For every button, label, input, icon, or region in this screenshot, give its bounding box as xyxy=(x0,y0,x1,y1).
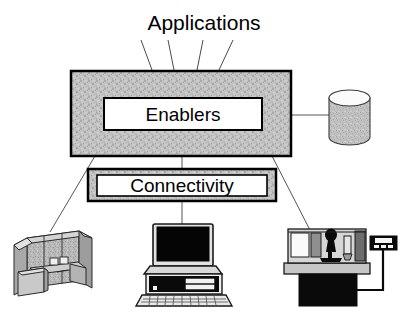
controller-button-2[interactable] xyxy=(381,245,386,248)
cnc-machine-tool-icon[interactable] xyxy=(284,229,370,307)
cubicle-pedestal-side xyxy=(44,268,48,292)
architecture-diagram: Applications Enablers xyxy=(0,0,408,314)
machine-tool-magazine-base xyxy=(343,254,352,260)
connectivity-label: Connectivity xyxy=(130,175,234,196)
controller-button-1[interactable] xyxy=(374,245,379,248)
machine-tool-magazine xyxy=(344,236,351,254)
system-unit-front xyxy=(149,276,219,292)
applications-connector-4 xyxy=(219,40,233,70)
machine-column-right xyxy=(355,231,365,261)
cubicle-desk-item-2 xyxy=(60,257,68,264)
controller-screen xyxy=(375,238,392,243)
machine-base xyxy=(299,274,357,306)
block-connectivity[interactable]: Connectivity xyxy=(88,169,276,201)
diagram-canvas: Applications Enablers xyxy=(0,0,408,314)
applications-connector-2 xyxy=(168,40,174,70)
cubicle-desk-return xyxy=(70,264,86,285)
drive-slot-1 xyxy=(186,279,214,283)
block-enablers[interactable]: Enablers xyxy=(71,71,291,156)
database-top xyxy=(329,90,370,106)
machine-spindle-base xyxy=(320,258,342,262)
keyboard[interactable] xyxy=(136,295,232,306)
machine-bed xyxy=(284,263,370,274)
database-cylinder-icon[interactable] xyxy=(329,90,370,145)
machine-window-center xyxy=(311,233,321,257)
page-title: Applications xyxy=(147,11,260,34)
applications-connector-1 xyxy=(141,40,152,70)
machine-tool-holder xyxy=(328,252,332,258)
enablers-label: Enablers xyxy=(146,104,221,125)
monitor-screen xyxy=(157,227,209,261)
applications-connectors xyxy=(141,40,233,70)
machine-window-left xyxy=(291,233,309,257)
cubicle-desk-item-1 xyxy=(50,258,58,265)
power-indicator xyxy=(153,286,157,290)
office-cubicle-icon[interactable] xyxy=(14,231,92,296)
machine-spindle-head xyxy=(325,229,337,242)
desktop-computer-icon[interactable] xyxy=(136,224,232,306)
monitor-base xyxy=(144,266,222,274)
connector-enablers-to-machine xyxy=(272,156,311,232)
drive-slot-2 xyxy=(186,285,214,289)
controller-button-3[interactable] xyxy=(388,245,393,248)
applications-connector-3 xyxy=(197,40,203,70)
